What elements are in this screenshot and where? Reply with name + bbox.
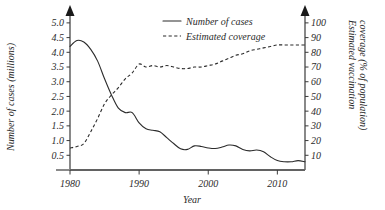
y-axis-title: Number of cases (millions) — [5, 42, 17, 152]
y2-tick-label: 90 — [311, 32, 321, 43]
y-tick-label: 2.5 — [52, 91, 65, 102]
x-tick-label: 1980 — [60, 178, 80, 189]
y2-tick-label: 70 — [311, 61, 321, 72]
y-tick-label: 5.0 — [52, 17, 65, 28]
y2-tick-label: 10 — [311, 150, 321, 161]
legend-label-number-of-cases: Number of cases — [185, 16, 253, 27]
y2-tick-label: 30 — [310, 120, 321, 131]
y2-tick-label: 20 — [311, 135, 321, 146]
y-tick-label: 1.0 — [52, 135, 65, 146]
x-axis-title: Year — [183, 194, 201, 205]
y2-tick-label: 100 — [311, 17, 326, 28]
chart-container: 0.51.01.52.02.53.03.54.04.55.01020304050… — [0, 0, 385, 210]
x-tick-label: 2000 — [198, 178, 218, 189]
x-tick-label: 1990 — [129, 178, 149, 189]
y2-axis-title-line2: coverage (% of population) — [357, 20, 369, 131]
y-tick-label: 1.5 — [52, 120, 65, 131]
y2-tick-label: 60 — [311, 76, 321, 87]
y-tick-label: 4.5 — [52, 32, 65, 43]
y-tick-label: 4.0 — [52, 47, 65, 58]
line-chart: 0.51.01.52.02.53.03.54.04.55.01020304050… — [0, 0, 385, 210]
y2-tick-label: 40 — [311, 106, 321, 117]
y-tick-label: 2.0 — [52, 106, 65, 117]
y2-tick-label: 80 — [311, 47, 321, 58]
y-tick-label: 0.5 — [52, 150, 65, 161]
y2-tick-label: 50 — [311, 91, 321, 102]
legend-label-estimated-coverage: Estimated coverage — [185, 31, 266, 42]
x-tick-label: 2010 — [267, 178, 287, 189]
y2-axis-title-line1: Estimated vaccination — [347, 19, 358, 109]
y-tick-label: 3.5 — [51, 61, 65, 72]
y-tick-label: 3.0 — [51, 76, 65, 87]
